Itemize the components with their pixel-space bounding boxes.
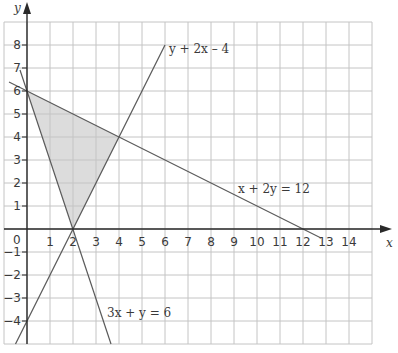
y-tick-label: −3	[3, 291, 21, 305]
y-tick-label: 3	[13, 153, 21, 167]
y-tick-label: −2	[3, 268, 21, 282]
x-axis-arrow-icon	[380, 225, 392, 233]
y-axis-label: y	[13, 1, 21, 15]
y-tick-label: −4	[3, 314, 21, 328]
x-tick-label: 6	[161, 235, 169, 249]
x-tick-label: 11	[272, 235, 287, 249]
y-tick-label: 7	[13, 61, 21, 75]
x-tick-label: 9	[230, 235, 238, 249]
y-tick-label: −1	[3, 245, 21, 259]
x-tick-label: 13	[318, 235, 333, 249]
x-tick-label: 3	[92, 235, 100, 249]
y-tick-label: 2	[13, 176, 21, 190]
equation-label-y-2x-4: y + 2x – 4	[168, 42, 229, 56]
y-tick-label: 4	[13, 130, 21, 144]
x-tick-label: 1	[46, 235, 54, 249]
linear-programming-graph: 1234567891011121314 87654321−1−2−3−4 y x…	[0, 0, 398, 353]
equation-label-x-2y-12: x + 2y = 12	[238, 182, 310, 196]
x-tick-label: 4	[115, 235, 123, 249]
grid	[4, 22, 372, 344]
y-tick-label: 6	[13, 84, 21, 98]
x-tick-label: 8	[207, 235, 215, 249]
x-tick-labels: 1234567891011121314	[46, 235, 356, 249]
x-tick-label: 2	[69, 235, 77, 249]
y-tick-label: 8	[13, 38, 21, 52]
origin-label: 0	[13, 233, 21, 247]
equation-label-3x-y-6: 3x + y = 6	[107, 306, 171, 320]
line-y-2x-4	[16, 45, 166, 344]
x-tick-label: 10	[249, 235, 264, 249]
x-tick-label: 5	[138, 235, 146, 249]
x-tick-label: 14	[341, 235, 356, 249]
x-tick-label: 12	[295, 235, 310, 249]
x-tick-label: 7	[184, 235, 192, 249]
x-axis-label: x	[386, 236, 393, 250]
y-tick-label: 5	[13, 107, 21, 121]
y-axis-arrow-icon	[23, 2, 31, 14]
y-tick-label: 1	[13, 199, 21, 213]
